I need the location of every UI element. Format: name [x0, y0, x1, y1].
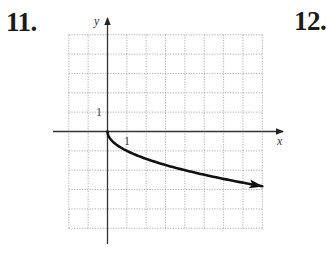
- x-tick-label-1: 1: [124, 134, 130, 148]
- coordinate-graph: x y 1 1: [0, 0, 328, 262]
- x-axis-label: x: [276, 134, 283, 148]
- y-tick-label-1: 1: [96, 105, 102, 119]
- y-axis-label: y: [93, 14, 100, 28]
